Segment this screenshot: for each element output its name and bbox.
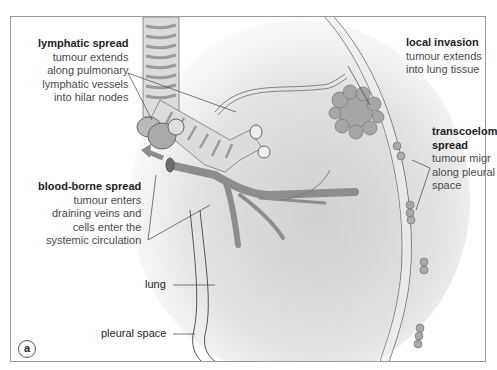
panel-letter-badge: a (18, 340, 36, 358)
annotation-transcoelomic-spread: transcoelom spread tumour migr along ple… (432, 125, 497, 193)
annotation-blood-borne-spread: blood-borne spread tumour enters drainin… (38, 180, 141, 248)
label-pleural-space: pleural space (101, 327, 166, 339)
label-lung: lung (145, 278, 166, 290)
annotation-lymphatic-spread: lymphatic spread tumour extends along pu… (38, 37, 128, 105)
annotation-local-invasion: local invasion tumour extends into lung … (406, 36, 482, 77)
annotation-title: lymphatic spread (38, 37, 128, 51)
